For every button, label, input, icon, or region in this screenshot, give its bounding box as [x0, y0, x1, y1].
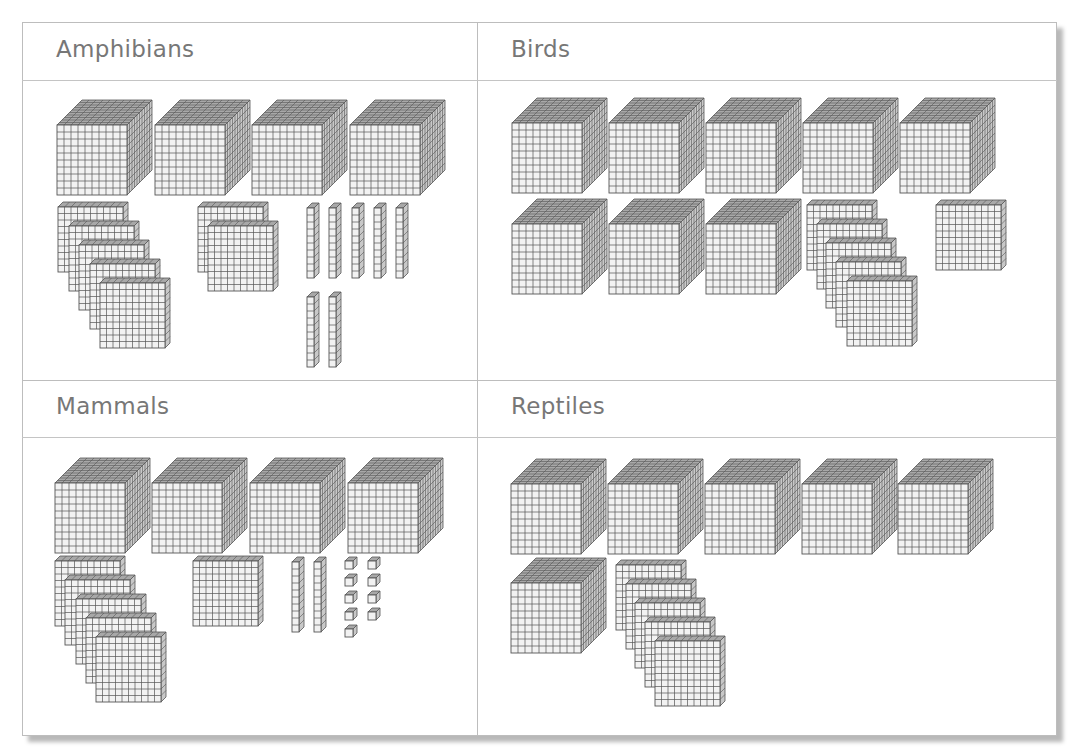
- unit-cube-mammals: [368, 608, 380, 620]
- ten-rod-amphibians: [352, 203, 364, 278]
- unit-cube-mammals: [368, 591, 380, 603]
- thousand-cube-reptiles: [705, 459, 800, 554]
- ten-rod-amphibians: [307, 203, 319, 278]
- thousand-cube-mammals: [55, 458, 150, 553]
- hundred-flat-mammals: [193, 556, 263, 626]
- thousand-cube-birds: [609, 98, 704, 193]
- thousand-cube-amphibians: [155, 100, 250, 195]
- hundred-flat-birds: [847, 276, 917, 346]
- unit-cube-mammals: [345, 625, 357, 637]
- thousand-cube-reptiles: [511, 558, 606, 653]
- ten-rod-amphibians: [329, 203, 341, 278]
- hundred-flat-reptiles: [655, 636, 725, 706]
- ten-rod-amphibians: [307, 292, 319, 367]
- thousand-cube-birds: [900, 98, 995, 193]
- hundred-flat-amphibians: [208, 221, 278, 291]
- unit-cube-mammals: [368, 557, 380, 569]
- hundred-flat-amphibians: [100, 278, 170, 348]
- hundred-flat-birds: [936, 200, 1006, 270]
- thousand-cube-amphibians: [57, 100, 152, 195]
- unit-cube-mammals: [368, 574, 380, 586]
- thousand-cube-birds: [706, 98, 801, 193]
- unit-cube-mammals: [345, 557, 357, 569]
- unit-cube-mammals: [345, 574, 357, 586]
- thousand-cube-birds: [609, 199, 704, 294]
- base-ten-blocks: [0, 0, 1079, 756]
- thousand-cube-mammals: [152, 458, 247, 553]
- ten-rod-amphibians: [329, 292, 341, 367]
- ten-rod-amphibians: [374, 203, 386, 278]
- ten-rod-mammals: [314, 557, 326, 632]
- unit-cube-mammals: [345, 608, 357, 620]
- thousand-cube-mammals: [348, 458, 443, 553]
- thousand-cube-birds: [512, 199, 607, 294]
- ten-rod-amphibians: [396, 203, 408, 278]
- thousand-cube-amphibians: [252, 100, 347, 195]
- thousand-cube-reptiles: [511, 459, 606, 554]
- thousand-cube-reptiles: [802, 459, 897, 554]
- thousand-cube-birds: [512, 98, 607, 193]
- thousand-cube-mammals: [250, 458, 345, 553]
- unit-cube-mammals: [345, 591, 357, 603]
- thousand-cube-birds: [803, 98, 898, 193]
- hundred-flat-mammals: [96, 632, 166, 702]
- ten-rod-mammals: [292, 557, 304, 632]
- thousand-cube-reptiles: [608, 459, 703, 554]
- thousand-cube-amphibians: [350, 100, 445, 195]
- thousand-cube-reptiles: [898, 459, 993, 554]
- thousand-cube-birds: [706, 199, 801, 294]
